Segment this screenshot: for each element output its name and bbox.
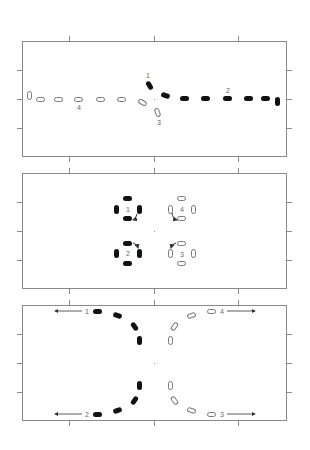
rotation-arrow-icon — [133, 214, 137, 220]
rotation-arrow-icon — [172, 213, 177, 220]
rotation-arrow-icon — [171, 243, 176, 248]
arrows-overlay — [0, 0, 310, 450]
rotation-arrow-icon — [133, 243, 138, 248]
